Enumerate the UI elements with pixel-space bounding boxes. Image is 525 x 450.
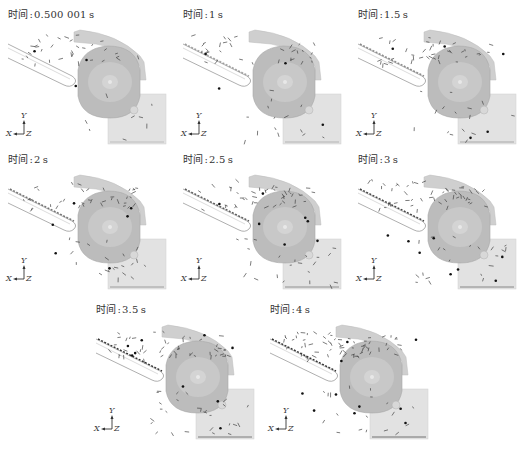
axis-x-label: X xyxy=(356,274,362,283)
simulation-panel-t5: 时间:3 s Y X Z xyxy=(350,145,525,293)
time-prefix: 时间 xyxy=(358,154,378,165)
simulation-panel-t7: 时间:4 s Y X Z xyxy=(262,295,437,443)
axis-z-label: Z xyxy=(201,274,207,283)
axis-y-label: Y xyxy=(196,256,201,265)
time-unit: s xyxy=(43,154,48,165)
time-separator: : xyxy=(204,9,208,20)
axis-triad: Y X Z xyxy=(96,407,136,437)
time-separator: : xyxy=(204,154,208,165)
feed-chute xyxy=(270,339,338,381)
axis-x-label: X xyxy=(268,424,274,433)
time-value: 3 xyxy=(384,154,391,165)
time-value: 3.5 xyxy=(122,304,139,315)
axis-y-label: Y xyxy=(196,111,201,120)
axis-triad: Y X Z xyxy=(8,257,48,287)
time-unit: s xyxy=(403,9,408,20)
time-label: 时间:2.5 s xyxy=(183,151,233,166)
axis-y-label: Y xyxy=(371,111,376,120)
time-unit: s xyxy=(393,154,398,165)
time-prefix: 时间 xyxy=(96,304,116,315)
rotor-drum xyxy=(428,191,490,263)
axis-x-label: X xyxy=(356,129,362,138)
axis-z-label: Z xyxy=(114,424,120,433)
time-prefix: 时间 xyxy=(183,9,203,20)
time-value: 0.500 001 xyxy=(34,9,87,20)
time-value: 1 xyxy=(209,9,216,20)
axis-x-label: X xyxy=(6,274,12,283)
feed-chute xyxy=(8,189,76,231)
time-unit: s xyxy=(89,9,94,20)
axis-z-label: Z xyxy=(201,129,207,138)
axis-x-label: X xyxy=(181,274,187,283)
time-value: 2 xyxy=(34,154,41,165)
rotor-drum xyxy=(78,191,140,263)
simulation-panel-t2: 时间:1.5 s Y X Z xyxy=(350,0,525,148)
axis-x-label: X xyxy=(181,129,187,138)
time-prefix: 时间 xyxy=(358,9,378,20)
rotor-drum xyxy=(253,46,315,118)
time-value: 1.5 xyxy=(384,9,401,20)
axis-triad: Y X Z xyxy=(270,407,310,437)
axis-z-label: Z xyxy=(376,129,382,138)
axis-y-label: Y xyxy=(21,111,26,120)
time-label: 时间:1.5 s xyxy=(358,6,408,21)
time-separator: : xyxy=(379,154,383,165)
feed-chute xyxy=(183,189,251,231)
time-label: 时间:2 s xyxy=(8,151,48,166)
axis-z-label: Z xyxy=(288,424,294,433)
simulation-panel-t0: 时间:0.500 001 s Y X Z xyxy=(0,0,175,148)
axis-triad: Y X Z xyxy=(8,112,48,142)
simulation-panel-t4: 时间:2.5 s Y X Z xyxy=(175,145,350,293)
feed-chute xyxy=(358,44,426,86)
feed-chute xyxy=(96,339,164,381)
axis-x-label: X xyxy=(94,424,100,433)
time-prefix: 时间 xyxy=(183,154,203,165)
rotor-drum xyxy=(428,46,490,118)
axis-triad: Y X Z xyxy=(358,257,398,287)
time-separator: : xyxy=(379,9,383,20)
time-value: 4 xyxy=(296,304,303,315)
time-label: 时间:3 s xyxy=(358,151,398,166)
time-prefix: 时间 xyxy=(8,9,28,20)
axis-z-label: Z xyxy=(26,274,32,283)
time-label: 时间:1 s xyxy=(183,6,223,21)
time-unit: s xyxy=(218,9,223,20)
time-prefix: 时间 xyxy=(270,304,290,315)
rotor-drum xyxy=(78,46,140,118)
time-separator: : xyxy=(117,304,121,315)
time-prefix: 时间 xyxy=(8,154,28,165)
rotor-drum xyxy=(253,191,315,263)
time-value: 2.5 xyxy=(209,154,226,165)
axis-triad: Y X Z xyxy=(183,112,223,142)
simulation-panel-t1: 时间:1 s Y X Z xyxy=(175,0,350,148)
simulation-panel-t3: 时间:2 s Y X Z xyxy=(0,145,175,293)
feed-chute xyxy=(183,44,251,86)
time-unit: s xyxy=(305,304,310,315)
time-label: 时间:4 s xyxy=(270,301,310,316)
axis-y-label: Y xyxy=(371,256,376,265)
simulation-panel-t6: 时间:3.5 s Y X Z xyxy=(88,295,263,443)
axis-y-label: Y xyxy=(283,406,288,415)
time-separator: : xyxy=(29,154,33,165)
axis-x-label: X xyxy=(6,129,12,138)
time-separator: : xyxy=(29,9,33,20)
axis-triad: Y X Z xyxy=(358,112,398,142)
feed-chute xyxy=(358,189,426,231)
axis-y-label: Y xyxy=(109,406,114,415)
axis-z-label: Z xyxy=(376,274,382,283)
time-label: 时间:0.500 001 s xyxy=(8,6,94,21)
time-unit: s xyxy=(141,304,146,315)
time-separator: : xyxy=(291,304,295,315)
axis-z-label: Z xyxy=(26,129,32,138)
axis-triad: Y X Z xyxy=(183,257,223,287)
time-label: 时间:3.5 s xyxy=(96,301,146,316)
time-unit: s xyxy=(228,154,233,165)
axis-y-label: Y xyxy=(21,256,26,265)
